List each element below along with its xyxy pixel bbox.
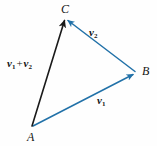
vector-label-v1: v1 [97, 95, 105, 108]
vector-subscript-2: 2 [94, 32, 98, 40]
plus-operator: + [15, 57, 23, 69]
vector-v1-arrow [33, 75, 133, 127]
vector-subscript-1: 1 [102, 100, 106, 108]
vector-v2-arrow [68, 21, 135, 72]
vector-subscript-2: 2 [29, 63, 33, 71]
vector-v1-plus-v2-arrow [32, 21, 65, 127]
vector-diagram-figure: A B C v1+v2 v1 v2 [0, 0, 157, 146]
vector-diagram-canvas [0, 0, 157, 146]
point-label-a: A [27, 131, 34, 143]
vector-label-v2: v2 [89, 27, 97, 40]
point-label-b: B [142, 65, 149, 77]
point-label-c: C [61, 3, 69, 15]
vector-label-v1-plus-v2: v1+v2 [7, 58, 32, 71]
